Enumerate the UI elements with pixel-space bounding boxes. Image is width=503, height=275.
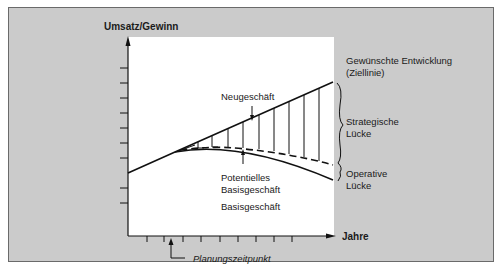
target-line-label: Gewünschte Entwicklung	[346, 55, 452, 66]
strategic-gap-label-2: Lücke	[346, 128, 371, 139]
strategic-gap-label: Strategische	[346, 116, 399, 127]
base-business-label: Basisgeschäft	[221, 201, 280, 212]
new-business-label: Neugeschäft	[221, 91, 274, 102]
planning-point-pointer	[171, 244, 185, 258]
operative-gap-label: Operative	[346, 168, 387, 179]
gap-analysis-diagram	[0, 0, 503, 275]
operative-gap-brace	[338, 163, 341, 181]
y-axis-ticks	[120, 68, 128, 203]
strategic-gap-brace	[337, 83, 343, 163]
y-axis-label: Umsatz/Gewinn	[104, 21, 178, 32]
target-line-sublabel: (Ziellinie)	[346, 67, 385, 78]
potential-base-label: Potentielles	[221, 172, 270, 183]
planning-point-arrow-icon	[169, 238, 174, 245]
planning-point-label: Planungszeitpunkt	[193, 253, 271, 264]
potential-base-label-2: Basisgeschäft	[221, 184, 280, 195]
operative-gap-label-2: Lücke	[346, 180, 371, 191]
x-axis-ticks	[147, 236, 292, 242]
x-axis-label: Jahre	[342, 231, 369, 242]
